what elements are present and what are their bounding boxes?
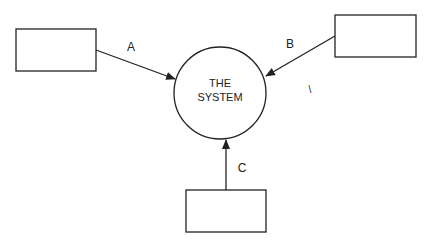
- entity-box-bottom: [186, 190, 266, 232]
- flow-label-b: B: [286, 37, 294, 51]
- flow-label-a: A: [127, 40, 135, 54]
- entity-box-right: [335, 15, 416, 57]
- context-diagram: THE SYSTEM A B C \: [0, 0, 431, 248]
- stray-mark: \: [309, 84, 312, 95]
- system-label-line2: SYSTEM: [197, 91, 242, 103]
- flow-label-c: C: [238, 161, 247, 175]
- flow-arrow-b: [266, 36, 335, 76]
- system-label-line1: THE: [209, 77, 231, 89]
- flow-arrow-a: [96, 50, 175, 79]
- diagram-svg: THE SYSTEM A B C \: [0, 0, 431, 248]
- entity-box-left: [16, 29, 96, 71]
